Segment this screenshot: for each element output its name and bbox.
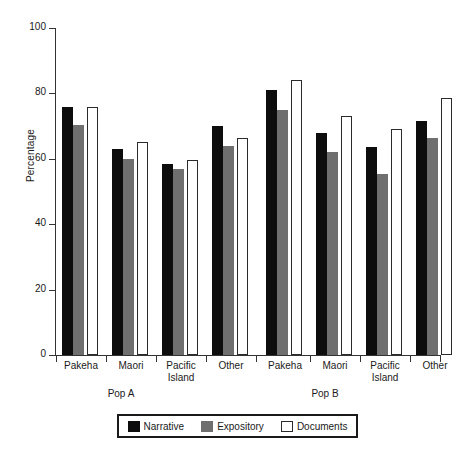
y-tick-label-40: 40 bbox=[35, 217, 46, 228]
bar-b-pakeha-narrative bbox=[266, 90, 277, 355]
legend-label-expository: Expository bbox=[217, 421, 264, 432]
group-label-pop-b: Pop B bbox=[265, 388, 385, 399]
bar-a-pakeha-documents bbox=[87, 107, 98, 356]
bar-a-other-expository bbox=[223, 146, 234, 355]
bar-group-b-pacific-island bbox=[366, 28, 406, 355]
bar-a-pacific-narrative bbox=[162, 164, 173, 355]
y-tick-label-0: 0 bbox=[40, 348, 46, 359]
bar-group-a-other bbox=[212, 28, 252, 355]
legend-label-narrative: Narrative bbox=[144, 421, 185, 432]
bar-b-pakeha-documents bbox=[291, 80, 302, 355]
bar-b-other-narrative bbox=[416, 121, 427, 355]
legend-swatch-documents-icon bbox=[281, 421, 293, 432]
bar-a-pakeha-expository bbox=[73, 125, 84, 356]
y-tick-label-100: 100 bbox=[29, 21, 46, 32]
bar-group-b-pakeha bbox=[266, 28, 306, 355]
bar-a-pakeha-narrative bbox=[62, 107, 73, 356]
bar-b-pacific-documents bbox=[391, 129, 402, 355]
y-tick-60: 60 bbox=[49, 159, 56, 160]
bar-b-pacific-narrative bbox=[366, 147, 377, 355]
x-label-b-pacific-line2: Island bbox=[346, 372, 424, 384]
legend-swatch-narrative-icon bbox=[128, 421, 140, 432]
bar-group-a-pakeha bbox=[62, 28, 102, 355]
y-tick-label-60: 60 bbox=[35, 152, 46, 163]
bar-b-maori-documents bbox=[341, 116, 352, 355]
y-tick-100: 100 bbox=[49, 28, 56, 29]
group-label-pop-a: Pop A bbox=[61, 388, 181, 399]
y-tick-0: 0 bbox=[49, 355, 56, 356]
y-tick-80: 80 bbox=[49, 93, 56, 94]
plot-area: 100 80 60 40 20 0 bbox=[56, 28, 441, 355]
bar-group-b-other bbox=[416, 28, 456, 355]
legend-label-documents: Documents bbox=[297, 421, 348, 432]
bar-b-other-expository bbox=[427, 138, 438, 356]
y-axis-title: Percentage bbox=[25, 86, 36, 226]
y-tick-label-80: 80 bbox=[35, 86, 46, 97]
bar-a-pacific-documents bbox=[187, 160, 198, 355]
y-axis-line bbox=[55, 28, 56, 355]
bar-a-other-narrative bbox=[212, 126, 223, 355]
x-axis-line bbox=[55, 355, 441, 356]
legend-item-expository[interactable]: Expository bbox=[201, 421, 264, 432]
bar-a-maori-narrative bbox=[112, 149, 123, 355]
bar-b-maori-expository bbox=[327, 152, 338, 355]
bar-chart-figure: Percentage 100 80 60 40 20 0 bbox=[0, 0, 457, 466]
bar-group-a-pacific-island bbox=[162, 28, 202, 355]
y-tick-40: 40 bbox=[49, 224, 56, 225]
bar-b-pacific-expository bbox=[377, 174, 388, 356]
chart-legend: Narrative Expository Documents bbox=[117, 414, 358, 438]
legend-item-documents[interactable]: Documents bbox=[281, 421, 348, 432]
bar-group-a-maori bbox=[112, 28, 152, 355]
bar-b-other-documents bbox=[441, 98, 452, 355]
bar-b-maori-narrative bbox=[316, 133, 327, 355]
bar-group-b-maori bbox=[316, 28, 356, 355]
bar-a-maori-expository bbox=[123, 159, 134, 355]
legend-swatch-expository-icon bbox=[201, 421, 213, 432]
y-tick-label-20: 20 bbox=[35, 283, 46, 294]
x-label-b-other-line1: Other bbox=[396, 360, 457, 372]
x-label-a-pacific-line2: Island bbox=[142, 372, 220, 384]
bar-b-pakeha-expository bbox=[277, 110, 288, 355]
legend-item-narrative[interactable]: Narrative bbox=[128, 421, 185, 432]
bar-a-pacific-expository bbox=[173, 169, 184, 355]
x-label-b-other: Other bbox=[396, 360, 457, 372]
bar-a-maori-documents bbox=[137, 142, 148, 355]
y-tick-20: 20 bbox=[49, 290, 56, 291]
bar-a-other-documents bbox=[237, 138, 248, 356]
